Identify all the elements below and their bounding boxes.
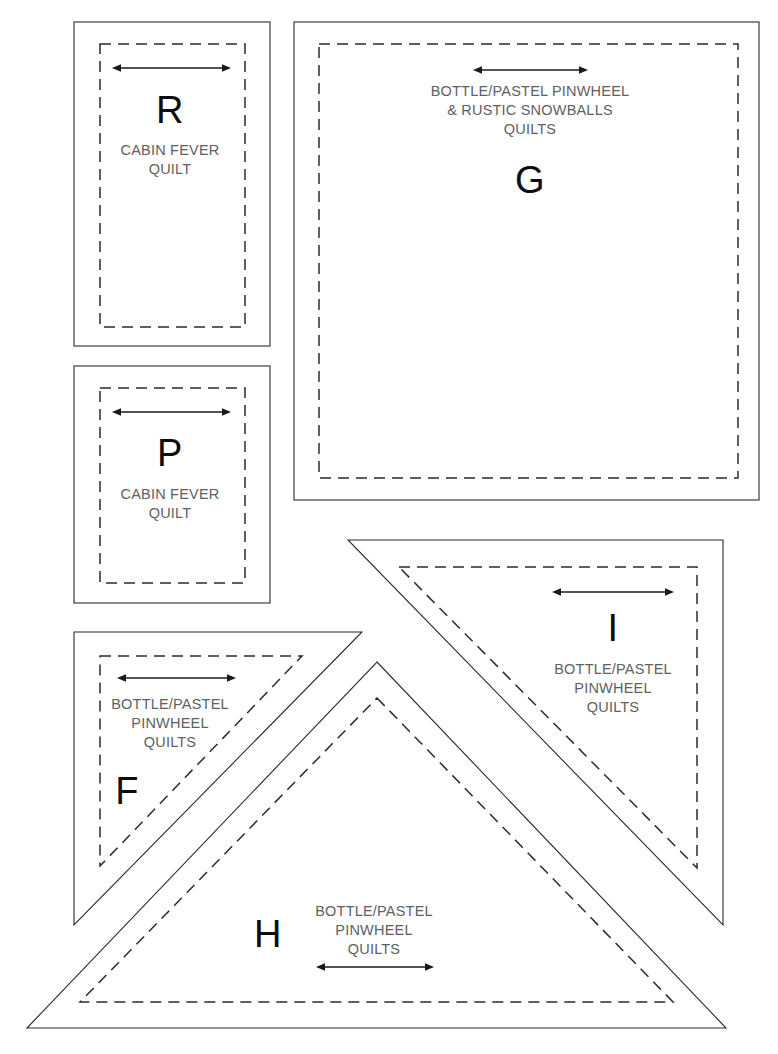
grain-arrow-r — [112, 64, 231, 72]
sew-line-r — [100, 44, 245, 327]
template-sheet: R CABIN FEVER QUILT BOTTLE/PASTEL PINWHE… — [0, 0, 778, 1054]
template-letter-i: I — [607, 609, 618, 647]
template-shape-r — [74, 22, 270, 346]
template-shape-i — [348, 540, 723, 925]
template-letter-f: F — [115, 772, 139, 810]
template-letter-h: H — [254, 915, 282, 953]
grain-arrow-f — [117, 674, 236, 682]
template-letter-r: R — [156, 91, 184, 129]
grain-arrow-i — [552, 588, 674, 596]
sew-line-f — [100, 656, 302, 866]
template-text-g: BOTTLE/PASTEL PINWHEEL & RUSTIC SNOWBALL… — [365, 82, 695, 139]
template-letter-p: P — [157, 434, 183, 472]
template-text-r: CABIN FEVER QUILT — [75, 141, 265, 179]
template-text-f: BOTTLE/PASTEL PINWHEEL QUILTS — [80, 695, 260, 752]
template-letter-g: G — [515, 161, 545, 199]
template-text-h: BOTTLE/PASTEL PINWHEEL QUILTS — [284, 902, 464, 959]
cut-line-r — [74, 22, 270, 346]
template-text-i: BOTTLE/PASTEL PINWHEEL QUILTS — [523, 660, 703, 717]
grain-arrow-g — [473, 66, 588, 74]
template-text-p: CABIN FEVER QUILT — [75, 485, 265, 523]
sew-line-i — [399, 567, 697, 868]
grain-arrow-h — [316, 963, 434, 971]
grain-arrow-p — [112, 408, 231, 416]
cut-line-i — [348, 540, 723, 925]
